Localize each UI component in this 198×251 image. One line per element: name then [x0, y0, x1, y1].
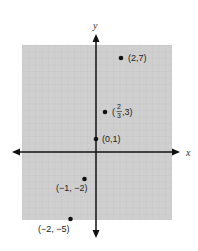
x-axis-left-arrow-icon [12, 149, 20, 156]
point-label-open: ( [112, 107, 115, 117]
y-axis-down-arrow-icon [93, 230, 100, 238]
y-axis-up-arrow-icon [93, 34, 100, 42]
coordinate-plane: x y (2,7) ( 2 3 ,3) (0,1) (−1, −2) (−2, … [0, 0, 198, 251]
point-label-numerator: 2 [117, 103, 121, 110]
x-axis-right-arrow-icon [172, 149, 180, 156]
point-label-denominator: 3 [117, 112, 121, 119]
x-axis-label: x [185, 147, 191, 158]
point-label: (0,1) [102, 134, 121, 144]
point-label-close: ,3) [122, 107, 133, 117]
point-label: (−1, −2) [56, 183, 88, 193]
grid-lines [22, 45, 172, 220]
y-axis-label: y [92, 20, 98, 31]
point-label: (−2, −5) [38, 224, 70, 234]
point-label: (2,7) [128, 53, 147, 63]
